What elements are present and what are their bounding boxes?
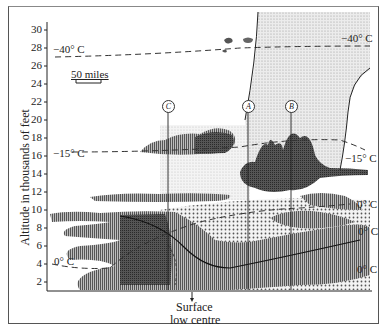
y-tick: 26 xyxy=(22,60,42,71)
isotherm-label-minus40-right: −40° C xyxy=(341,33,373,44)
surface-low-label-line1: Surface xyxy=(176,302,213,313)
y-tick: 24 xyxy=(22,78,42,89)
isotherm-label-zero-right-1: 0° C xyxy=(357,199,377,210)
marker-b: B xyxy=(285,100,298,113)
cloud-band-11k xyxy=(90,193,230,202)
isotherm-label-zero-right-2: 0° C xyxy=(358,226,378,237)
isotherm-label-minus15-left: −15° C xyxy=(53,148,85,159)
isotherm-label-minus40-left: −40° C xyxy=(53,44,85,55)
surface-low-label-line2: low centre xyxy=(170,315,220,326)
y-tick: 2 xyxy=(22,276,42,287)
y-axis-label: Altitude in thousands of feet xyxy=(18,103,33,253)
scale-bar-label: 50 miles xyxy=(71,69,109,80)
marker-a: A xyxy=(242,100,255,113)
marker-c: C xyxy=(162,100,175,113)
y-tick: 4 xyxy=(22,258,42,269)
isotherm-label-minus15-right: −15° C xyxy=(345,153,377,164)
y-tick: 28 xyxy=(22,42,42,53)
isotherm-label-zero-left: 0° C xyxy=(54,256,74,267)
isotherm-label-zero-right-3: 0° C xyxy=(357,264,377,275)
y-tick: 30 xyxy=(22,24,42,35)
